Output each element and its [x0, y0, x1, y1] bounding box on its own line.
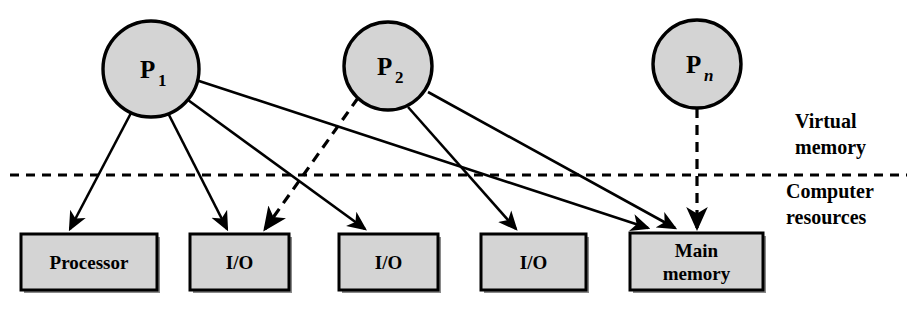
resource-label-processor: Processor [50, 252, 129, 273]
process-label-p1: P [140, 56, 155, 83]
connection-p1-processor [70, 113, 131, 229]
process-label-p2: P [377, 53, 392, 80]
connection-p2-io-3 [408, 107, 516, 229]
connection-p1-io-2 [188, 100, 365, 229]
connection-p1-io-1 [168, 113, 227, 229]
side-label-line2-virtual-memory: memory [795, 136, 866, 159]
resource-boxes-layer: ProcessorI/OI/OI/OMainmemory [21, 233, 766, 293]
process-label-pn: P [686, 51, 701, 78]
resource-label-io-1: I/O [226, 252, 253, 273]
side-label-line1-computer-resources: Computer [786, 180, 874, 203]
virtual-memory-diagram: ProcessorI/OI/OI/OMainmemory P1P2Pn Virt… [0, 0, 909, 309]
side-labels-layer: VirtualmemoryComputerresources [786, 110, 874, 228]
process-node-p1[interactable]: P1 [103, 21, 199, 117]
resource-label-main-memory: Main [675, 240, 719, 261]
process-subscript-p1: 1 [158, 71, 167, 90]
process-node-p2[interactable]: P2 [344, 22, 432, 110]
resource-box-processor[interactable]: Processor [21, 234, 160, 293]
resource-box-io-3[interactable]: I/O [481, 234, 589, 293]
side-label-virtual-memory: Virtualmemory [795, 110, 866, 159]
resource-label-io-3: I/O [520, 252, 547, 273]
connection-p2-main-memory [428, 92, 675, 228]
process-subscript-pn: n [704, 66, 713, 85]
side-label-line2-computer-resources: resources [786, 206, 867, 228]
resource-label2-main-memory: memory [663, 263, 731, 284]
diagram-canvas: ProcessorI/OI/OI/OMainmemory P1P2Pn Virt… [0, 0, 909, 309]
process-node-pn[interactable]: Pn [653, 20, 741, 108]
process-nodes-layer: P1P2Pn [103, 20, 741, 117]
side-label-computer-resources: Computerresources [786, 180, 874, 228]
resource-box-io-1[interactable]: I/O [190, 234, 292, 293]
resource-label-io-2: I/O [375, 252, 402, 273]
process-subscript-p2: 2 [395, 68, 404, 87]
resource-box-main-memory[interactable]: Mainmemory [630, 233, 766, 293]
resource-box-io-2[interactable]: I/O [339, 234, 441, 293]
side-label-line1-virtual-memory: Virtual [795, 110, 857, 132]
